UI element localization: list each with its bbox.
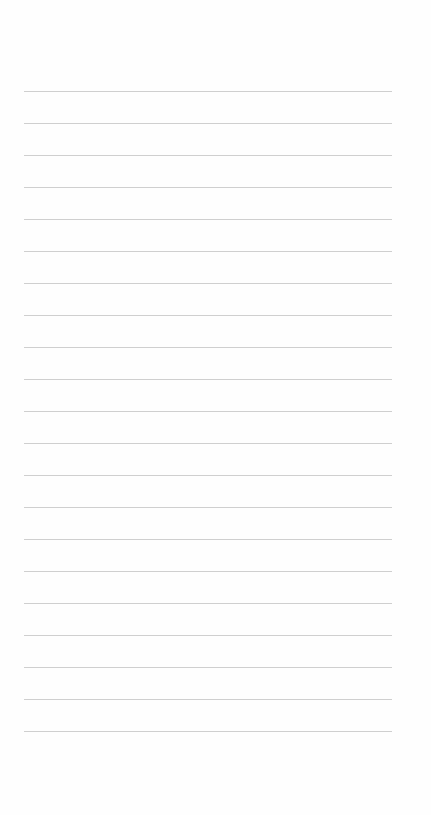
ruled-line [24, 155, 392, 156]
ruled-line [24, 635, 392, 636]
ruled-line [24, 347, 392, 348]
ruled-line [24, 91, 392, 92]
ruled-line [24, 571, 392, 572]
lined-page [0, 0, 431, 815]
ruled-line [24, 667, 392, 668]
ruled-line [24, 507, 392, 508]
ruled-line [24, 315, 392, 316]
ruled-line [24, 443, 392, 444]
ruled-line [24, 539, 392, 540]
ruled-line [24, 731, 392, 732]
ruled-line [24, 475, 392, 476]
ruled-line [24, 699, 392, 700]
ruled-line [24, 411, 392, 412]
ruled-line [24, 283, 392, 284]
ruled-line [24, 123, 392, 124]
ruled-line [24, 251, 392, 252]
ruled-line [24, 187, 392, 188]
ruled-line [24, 603, 392, 604]
ruled-line [24, 379, 392, 380]
ruled-line [24, 219, 392, 220]
